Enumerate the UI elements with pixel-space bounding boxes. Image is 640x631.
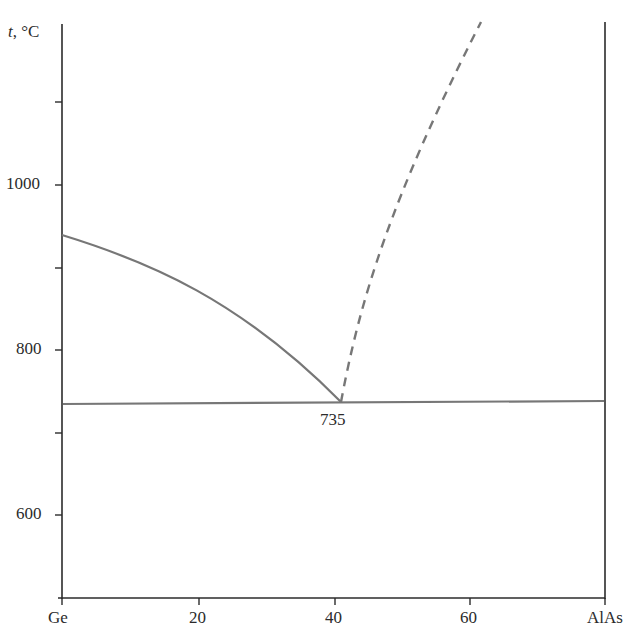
y-ticks [55,102,62,515]
xtick-label-60: 60 [460,608,477,628]
xtick-label-alas: AlAs [587,608,623,628]
x-ticks [62,598,605,605]
liquidus-alas-side-dashed [341,22,481,402]
liquidus-ge-side [62,235,341,402]
eutectic-line [63,401,604,404]
xtick-label-20: 20 [189,608,206,628]
ytick-label-800: 800 [16,339,42,359]
phase-diagram-plot [0,0,640,631]
ytick-label-600: 600 [16,504,42,524]
y-axis-label: t, °C [8,22,39,42]
ytick-label-1000: 1000 [6,174,40,194]
eutectic-annotation: 735 [320,410,346,430]
xtick-label-40: 40 [325,608,342,628]
xtick-label-ge: Ge [48,608,68,628]
